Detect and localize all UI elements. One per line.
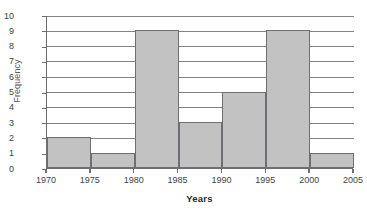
plot-area: [46, 16, 353, 169]
x-tick-mark: [308, 169, 310, 173]
y-tick-mark: [42, 154, 46, 155]
bars-group: [47, 15, 354, 168]
x-tick-mark: [89, 169, 91, 173]
y-tick-mark: [42, 31, 46, 32]
y-tick-mark: [42, 77, 46, 78]
y-tick-mark: [42, 16, 46, 17]
y-tick-label: 7: [0, 56, 14, 67]
x-tick-label: 1970: [24, 175, 68, 186]
histogram-bar: [266, 30, 310, 168]
y-tick-mark: [42, 47, 46, 48]
x-tick-label: 1995: [243, 175, 287, 186]
x-tick-mark: [265, 169, 267, 173]
x-tick-mark: [352, 169, 354, 173]
x-tick-label: 1990: [199, 175, 243, 186]
x-tick-label: 1985: [156, 175, 200, 186]
y-tick-label: 1: [0, 148, 14, 159]
histogram-bar: [310, 153, 354, 168]
y-tick-mark: [42, 108, 46, 109]
x-tick-label: 1980: [112, 175, 156, 186]
y-tick-label: 3: [0, 118, 14, 129]
y-tick-label: 9: [0, 26, 14, 37]
histogram-figure: Frequency 012345678910 19701975198019851…: [0, 0, 367, 214]
x-tick-label: 2000: [287, 175, 331, 186]
x-tick-label: 2005: [331, 175, 367, 186]
x-axis-title: Years: [46, 193, 353, 204]
x-tick-mark: [177, 169, 179, 173]
x-tick-label: 1975: [68, 175, 112, 186]
x-tick-mark: [133, 169, 135, 173]
y-tick-mark: [42, 138, 46, 139]
y-tick-label: 2: [0, 133, 14, 144]
y-tick-label: 5: [0, 87, 14, 98]
y-tick-label: 8: [0, 41, 14, 52]
histogram-bar: [47, 137, 91, 168]
histogram-bar: [179, 122, 223, 168]
y-tick-mark: [42, 62, 46, 63]
y-tick-label: 10: [0, 11, 14, 22]
histogram-bar: [91, 153, 135, 168]
y-tick-label: 0: [0, 164, 14, 175]
histogram-bar: [222, 92, 266, 169]
x-tick-mark: [221, 169, 223, 173]
histogram-bar: [135, 30, 179, 168]
x-tick-mark: [45, 169, 47, 173]
y-tick-label: 6: [0, 72, 14, 83]
y-tick-mark: [42, 123, 46, 124]
y-tick-mark: [42, 93, 46, 94]
y-tick-label: 4: [0, 102, 14, 113]
